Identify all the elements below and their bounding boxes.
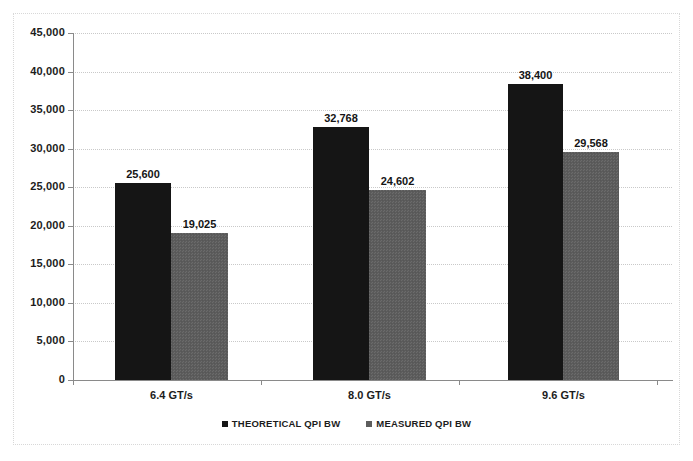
bar-theoretical[interactable] [115,183,171,380]
x-axis-tick [657,380,658,385]
bar-chart: 05,00010,00015,00020,00025,00030,00035,0… [0,0,693,461]
y-axis-tick-label: 20,000 [5,220,65,231]
y-axis-tick-label: 35,000 [5,104,65,115]
x-axis-category-label: 9.6 GT/s [514,389,614,402]
y-axis-tick-label: 45,000 [5,27,65,38]
y-axis-tick-label: 15,000 [5,258,65,269]
bars-layer [73,33,673,380]
legend-item-measured[interactable]: MEASURED QPI BW [366,418,471,429]
y-axis-tick-label: 40,000 [5,66,65,77]
bar-value-label-theoretical: 25,600 [115,168,171,180]
bar-value-label-measured: 19,025 [171,218,228,230]
x-axis-tick [261,380,262,385]
legend-label-measured: MEASURED QPI BW [376,418,471,429]
bar-value-label-theoretical: 38,400 [508,69,563,81]
bar-value-label-theoretical: 32,768 [313,112,369,124]
x-axis-category-label: 8.0 GT/s [320,389,420,402]
legend-item-theoretical[interactable]: THEORETICAL QPI BW [222,418,340,429]
y-axis-tick-label: 25,000 [5,181,65,192]
bar-theoretical[interactable] [508,84,563,380]
bar-measured[interactable] [171,233,228,380]
y-axis-tick-label: 0 [5,374,65,385]
chart-legend: THEORETICAL QPI BW MEASURED QPI BW [0,418,693,429]
bar-value-label-measured: 24,602 [369,175,426,187]
legend-swatch-icon-measured [366,421,372,427]
bar-value-label-measured: 29,568 [563,137,619,149]
bar-measured[interactable] [369,190,426,380]
x-axis-tick-origin [73,380,74,385]
legend-label-theoretical: THEORETICAL QPI BW [232,418,340,429]
y-axis-tick-label: 10,000 [5,297,65,308]
y-axis-tick-label: 30,000 [5,143,65,154]
x-axis-category-label: 6.4 GT/s [122,389,222,402]
x-axis-line [73,380,673,381]
bar-theoretical[interactable] [313,127,369,380]
y-axis-tick-label: 5,000 [5,335,65,346]
legend-swatch-icon-theoretical [222,421,228,427]
bar-measured[interactable] [563,152,619,380]
y-axis-labels: 05,00010,00015,00020,00025,00030,00035,0… [0,0,65,461]
x-axis-tick [459,380,460,385]
